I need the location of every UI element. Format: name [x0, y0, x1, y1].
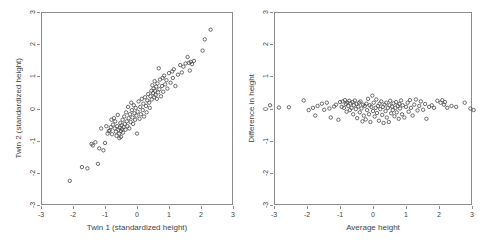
y-tick-mark	[270, 12, 273, 13]
x-tick-label: 0	[371, 211, 375, 218]
data-point	[188, 69, 191, 72]
data-point	[139, 105, 142, 108]
data-point	[423, 102, 426, 105]
data-point	[408, 98, 411, 101]
y-tick-label: 2	[29, 42, 36, 46]
data-point	[180, 71, 183, 74]
data-point	[159, 95, 162, 98]
data-point	[146, 99, 149, 102]
data-point	[397, 117, 400, 120]
data-point	[399, 99, 402, 102]
data-point	[382, 121, 385, 124]
data-point	[361, 120, 364, 123]
data-point	[403, 116, 406, 119]
data-point	[416, 109, 419, 112]
data-point	[307, 108, 310, 111]
data-point	[414, 98, 417, 101]
data-point	[311, 106, 314, 109]
data-point	[123, 115, 126, 118]
data-point	[103, 141, 106, 144]
x-tick-label: 2	[437, 211, 441, 218]
y-tick-mark	[37, 44, 40, 45]
data-point	[86, 167, 89, 170]
y-tick-mark	[37, 205, 40, 206]
data-point	[411, 114, 414, 117]
data-point	[176, 73, 179, 76]
x-tick-mark	[472, 206, 473, 209]
data-point	[110, 133, 113, 136]
data-point	[126, 124, 129, 127]
data-point	[413, 103, 416, 106]
data-point	[364, 118, 367, 121]
data-point	[381, 113, 384, 116]
data-point	[162, 90, 165, 93]
x-tick-label: 3	[470, 211, 474, 218]
data-point	[111, 123, 114, 126]
data-point	[432, 106, 435, 109]
data-point	[316, 104, 319, 107]
data-point	[144, 104, 147, 107]
data-point	[454, 105, 457, 108]
y-tick-mark	[270, 44, 273, 45]
right-panel: -3-2-10123-3-2-10123 Average height Diff…	[244, 0, 488, 246]
data-point	[133, 118, 136, 121]
left-y-axis-title-wrap: Twin 2 (standardized height)	[11, 12, 25, 205]
data-point	[148, 106, 151, 109]
data-point	[320, 102, 323, 105]
data-point	[182, 65, 185, 68]
data-point	[147, 101, 150, 104]
data-point	[409, 106, 412, 109]
data-point	[139, 113, 142, 116]
y-tick-mark	[270, 173, 273, 174]
y-tick-label: 2	[262, 42, 269, 46]
data-point	[136, 110, 139, 113]
twin-height-scatter-figure: -3-2-10123-3-2-10123 Twin 1 (standardize…	[0, 0, 488, 246]
data-point	[138, 117, 141, 120]
x-tick-mark	[41, 206, 42, 209]
x-tick-label: 1	[167, 211, 171, 218]
data-point	[105, 124, 108, 127]
x-tick-mark	[340, 206, 341, 209]
data-point	[302, 99, 305, 102]
data-point	[143, 96, 146, 99]
right-x-axis-title: Average height	[346, 223, 400, 232]
data-point	[328, 107, 331, 110]
data-point	[156, 82, 159, 85]
x-tick-label: 0	[135, 211, 139, 218]
data-point	[141, 108, 144, 111]
data-point	[375, 111, 378, 114]
data-point	[126, 105, 129, 108]
data-point	[131, 122, 134, 125]
y-tick-mark	[270, 76, 273, 77]
y-tick-label: 3	[262, 10, 269, 14]
data-point	[421, 108, 424, 111]
x-tick-mark	[137, 206, 138, 209]
data-point	[174, 84, 177, 87]
data-point	[169, 81, 172, 84]
data-point	[171, 76, 174, 79]
data-point	[398, 107, 401, 110]
x-tick-mark	[439, 206, 440, 209]
data-point	[102, 149, 105, 152]
y-tick-mark	[270, 205, 273, 206]
data-point	[137, 100, 140, 103]
data-point	[127, 116, 130, 119]
data-point	[99, 127, 102, 130]
data-point	[387, 120, 390, 123]
left-x-axis-title: Twin 1 (standardized height)	[87, 223, 188, 232]
data-point	[158, 88, 161, 91]
data-point	[277, 106, 280, 109]
data-point	[356, 105, 359, 108]
x-tick-label: -3	[271, 211, 277, 218]
x-tick-mark	[73, 206, 74, 209]
data-point	[401, 104, 404, 107]
data-point	[165, 78, 168, 81]
data-point	[425, 117, 428, 120]
data-point	[371, 109, 374, 112]
data-point	[384, 109, 387, 112]
data-point	[287, 106, 290, 109]
x-tick-label: -2	[70, 211, 76, 218]
data-point	[352, 113, 355, 116]
data-point	[446, 106, 449, 109]
data-point	[325, 101, 328, 104]
